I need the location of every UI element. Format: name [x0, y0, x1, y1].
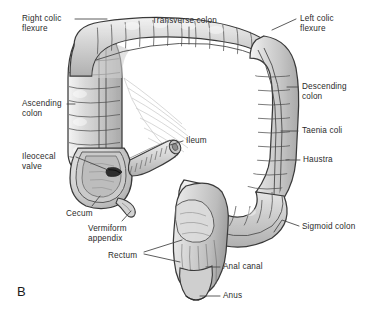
label-sigmoid-colon-line1: Sigmoid colon [302, 222, 355, 232]
structure-anal-canal [180, 266, 213, 300]
label-haustra-line1: Haustra [303, 155, 333, 165]
label-rectum: Rectum [108, 251, 137, 261]
label-left-colic-flexure-line1: Left colic [300, 14, 334, 24]
label-transverse-colon-line1: Transverse colon [152, 16, 217, 26]
label-ileocecal-valve-line1: Ileocecal [22, 152, 56, 162]
label-ileum-line1: Ileum [186, 136, 207, 146]
label-descending-colon-line1: Descending [302, 82, 347, 92]
label-haustra: Haustra [303, 155, 333, 165]
label-anal-canal-line1: Anal canal [223, 262, 263, 272]
label-right-colic-flexure: Right colic flexure [22, 14, 61, 33]
structure-rectum [173, 183, 228, 300]
label-vermiform-appendix-line1: Vermiform [88, 224, 127, 234]
label-ascending-colon: Ascending colon [22, 99, 62, 118]
label-anus: Anus [223, 291, 242, 301]
label-vermiform-appendix-line2: appendix [88, 234, 127, 244]
label-anus-line1: Anus [223, 291, 242, 301]
label-ileum: Ileum [186, 136, 207, 146]
label-left-colic-flexure-line2: flexure [300, 24, 334, 34]
structure-ileum [128, 138, 182, 176]
label-descending-colon-line2: colon [302, 92, 347, 102]
label-taenia-coli: Taenia coli [302, 126, 342, 136]
label-taenia-coli-line1: Taenia coli [302, 126, 342, 136]
leader-left-colic-flexure [272, 19, 296, 30]
structure-vermiform-appendix [116, 198, 135, 217]
label-rectum-line1: Rectum [108, 251, 137, 261]
label-vermiform-appendix: Vermiform appendix [88, 224, 127, 243]
panel-label: B [17, 284, 26, 299]
figure-canvas: Right colic flexure Transverse colon Lef… [0, 0, 380, 311]
label-ileocecal-valve: Ileocecal valve [22, 152, 56, 171]
label-cecum-line1: Cecum [66, 209, 93, 219]
label-transverse-colon: Transverse colon [152, 16, 217, 26]
label-anal-canal: Anal canal [223, 262, 263, 272]
label-ascending-colon-line2: colon [22, 109, 62, 119]
label-right-colic-flexure-line2: flexure [22, 24, 61, 34]
label-left-colic-flexure: Left colic flexure [300, 14, 334, 33]
structure-descending-colon [246, 36, 302, 198]
label-ascending-colon-line1: Ascending [22, 99, 62, 109]
label-ileocecal-valve-line2: valve [22, 162, 56, 172]
label-sigmoid-colon: Sigmoid colon [302, 222, 355, 232]
label-cecum: Cecum [66, 209, 93, 219]
label-descending-colon: Descending colon [302, 82, 347, 101]
label-right-colic-flexure-line1: Right colic [22, 14, 61, 24]
